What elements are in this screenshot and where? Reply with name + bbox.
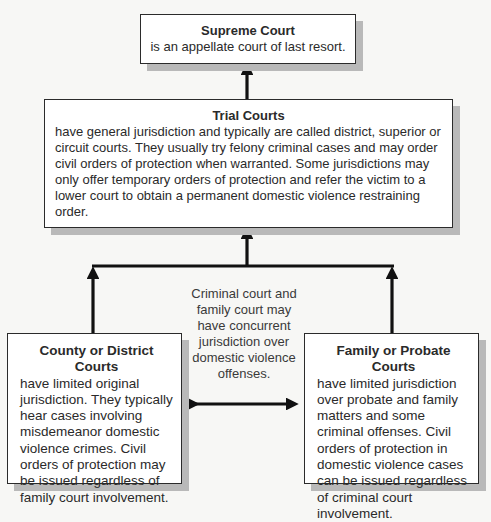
node-family-probate-courts: Family or Probate Courts have limited ju…: [304, 333, 479, 484]
node-title: Supreme Court: [141, 23, 355, 39]
node-trial-courts: Trial Courts have general jurisdiction a…: [44, 99, 453, 228]
node-text: have limited original jurisdiction. They…: [20, 376, 173, 505]
node-county-district-courts: County or District Courts have limited o…: [7, 333, 182, 484]
node-title: County or District Courts: [20, 343, 173, 376]
node-text: is an appellate court of last resort.: [150, 39, 345, 54]
node-text: have limited jurisdiction over probate a…: [317, 376, 467, 521]
node-text: have general jurisdiction and typically …: [55, 124, 441, 219]
node-title: Family or Probate Courts: [317, 343, 470, 376]
node-title: Trial Courts: [55, 108, 442, 124]
concurrent-jurisdiction-note: Criminal court and family court may have…: [183, 286, 305, 382]
node-supreme-court: Supreme Court is an appellate court of l…: [140, 14, 356, 64]
